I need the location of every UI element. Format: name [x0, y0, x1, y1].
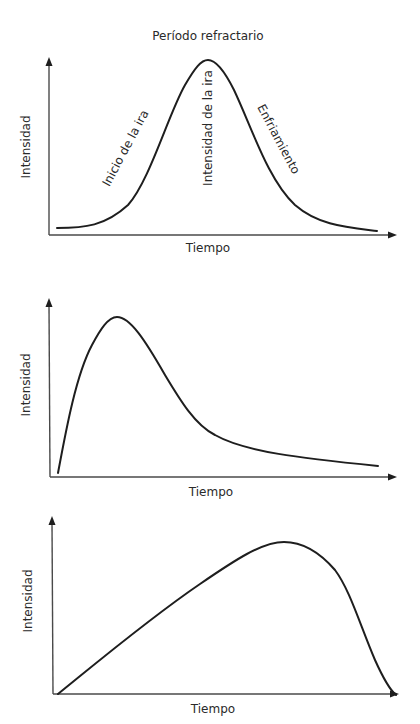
- chart-refractory-period: Período refractario Intensidad Tiempo In…: [19, 29, 397, 255]
- y-axis-label: Intensidad: [21, 569, 35, 632]
- y-axis-label: Intensidad: [19, 115, 33, 178]
- chart-late-peak: Intensidad Tiempo: [21, 516, 399, 716]
- annotation-onset: Inicio de la ira: [99, 108, 151, 189]
- chart-early-peak: Intensidad Tiempo: [19, 298, 397, 499]
- y-axis-arrow-icon: [46, 57, 53, 66]
- annotation-peak: Intensidad de la ira: [201, 70, 215, 186]
- y-axis-label: Intensidad: [19, 353, 33, 416]
- y-axis-arrow-icon: [46, 298, 53, 307]
- chart-title: Período refractario: [152, 29, 263, 43]
- x-axis-arrow-icon: [388, 232, 397, 239]
- figure-canvas: Período refractario Intensidad Tiempo In…: [0, 0, 420, 724]
- y-axis: [49, 305, 50, 477]
- x-axis-label: Tiempo: [185, 241, 230, 255]
- y-axis-arrow-icon: [49, 516, 56, 525]
- x-axis-label: Tiempo: [188, 485, 233, 499]
- late-peak-curve: [58, 542, 396, 695]
- x-axis-arrow-icon: [388, 474, 397, 481]
- y-axis: [52, 523, 53, 694]
- x-axis-label: Tiempo: [190, 702, 235, 716]
- bell-curve: [57, 60, 377, 231]
- early-peak-curve: [58, 317, 378, 473]
- annotation-cooling: Enfriamiento: [254, 102, 303, 177]
